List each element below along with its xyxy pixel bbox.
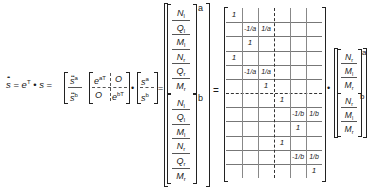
matrix-bracket-right (322, 7, 326, 182)
s-vec-divider (140, 87, 154, 88)
s-b: sb (141, 90, 149, 103)
matrix-entry: 1/a (258, 22, 274, 36)
matrix-entry: 1/b (306, 150, 322, 164)
state-vector-entry: Nl (170, 6, 192, 21)
matrix-entry: 1 (290, 121, 306, 135)
state-vector-outer-bracket-right (206, 3, 210, 187)
block-v-divider (110, 73, 111, 101)
state-vector-entry: Mr (170, 169, 192, 184)
dot-operator: • (33, 79, 36, 90)
state-vector-entry: Nl (170, 96, 192, 111)
s-a: sa (141, 74, 149, 87)
reduced-label-b: b (360, 92, 364, 102)
s-symbol: s (39, 79, 44, 90)
e-aT: eaT (94, 73, 106, 86)
matrix-entry: 1/a (258, 65, 274, 79)
state-vector-entry: Nr (170, 139, 192, 154)
bracket-left (64, 72, 68, 104)
s-ddot-b: ••sb (70, 90, 78, 103)
state-vector-entry: Ml (170, 35, 192, 50)
matrix-entry: 1 (226, 51, 242, 65)
matrix-entry: -1/a (242, 65, 258, 79)
dot-operator-2: • (131, 83, 134, 93)
state-vector-entry: Qr (170, 64, 192, 79)
zero-block-bottom: O (95, 90, 102, 100)
dot-operator-3: • (327, 83, 330, 93)
matrix-entry: 1 (226, 8, 242, 22)
equals-sign-4: = (213, 86, 219, 96)
state-vector-entry: Ml (170, 125, 192, 140)
matrix-entry: 1 (306, 164, 322, 178)
matrix-entry: 1/b (306, 107, 322, 121)
reduced-vector-entry: Mr (340, 78, 358, 92)
state-vector-entry: Ql (170, 110, 192, 125)
matrix-entry: 1 (274, 93, 290, 107)
transpose-sup: T (27, 79, 31, 85)
matrix-entry: 1 (242, 36, 258, 50)
reduced-vector-entry: Mr (340, 122, 358, 136)
equals-sign: = (13, 79, 19, 90)
state-vector-entry: Nr (170, 50, 192, 65)
s-ddot-a: ••sa (70, 73, 78, 86)
transform-matrix: 1-1/a1/a11-1/a1/a11-1/b1/b11-1/b1/b1 (226, 8, 324, 178)
reduced-vector-entry: Ml (340, 64, 358, 78)
matrix-entry: 1 (258, 79, 274, 93)
reduced-vector-entry: Nr (340, 94, 358, 108)
state-vector-entry: Ql (170, 21, 192, 36)
matrix-entry: -1/a (242, 22, 258, 36)
equals-sign-2: = (47, 79, 53, 90)
s-double-dot: ••s (6, 79, 11, 90)
e-bT: ebT (112, 89, 124, 102)
state-vector-entry: Qr (170, 154, 192, 169)
lhs-expression: ••s = eT • s = (6, 79, 52, 90)
state-vector-b-bracket-right (193, 94, 197, 184)
block-label-a: a (198, 3, 203, 13)
state-vector-a-bracket-right (193, 4, 197, 94)
matrix-entry: -1/b (290, 107, 306, 121)
matrix-entry: 1 (274, 136, 290, 150)
block-matrix-bracket-right (126, 72, 130, 104)
matrix-entry: -1/b (290, 150, 306, 164)
reduced-vector-entry: Ml (340, 108, 358, 122)
block-matrix-bracket-left (89, 72, 93, 104)
zero-block-top: O (115, 74, 122, 84)
equals-sign-3: = (158, 83, 163, 93)
block-label-b: b (198, 93, 203, 103)
reduced-label-a: a (362, 48, 366, 58)
reduced-vector-entry: Nr (340, 50, 358, 64)
state-vector-entry: Mr (170, 79, 192, 94)
